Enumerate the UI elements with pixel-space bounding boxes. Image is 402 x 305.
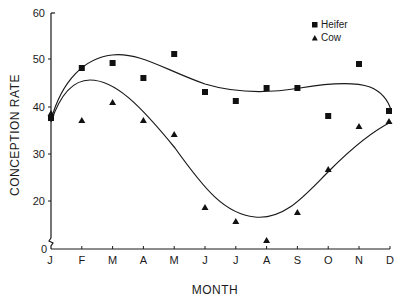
y-axis-title: CONCEPTION RATE	[8, 74, 22, 196]
heifer-point-jun	[202, 89, 208, 95]
cow-point-jul	[232, 218, 239, 224]
x-tick-dec: D	[386, 254, 394, 266]
x-tick-nov: N	[355, 254, 363, 266]
x-tick-may: M	[170, 254, 179, 266]
legend-heifer-label: Heifer	[321, 19, 348, 30]
x-tick-mar: M	[108, 254, 117, 266]
heifer-point-jul	[233, 98, 239, 104]
y-tick-0: 0	[41, 243, 47, 255]
x-tick-jan: J	[47, 254, 53, 266]
cow-point-feb	[78, 117, 85, 123]
conception-rate-chart: 60 50 40 30 20 0 J F M A M J J A S O N D	[0, 0, 402, 305]
heifer-point-feb	[79, 65, 85, 71]
x-tick-jul: J	[233, 254, 239, 266]
x-tick-sep: S	[294, 254, 301, 266]
legend-cow-triangle-icon	[312, 35, 318, 41]
y-tick-labels: 60 50 40 30 20 0	[33, 7, 47, 255]
cow-point-nov	[356, 123, 363, 129]
heifer-point-may	[171, 51, 177, 57]
cow-point-mar	[109, 99, 116, 105]
y-tick-20: 20	[33, 195, 45, 207]
x-tick-jun: J	[202, 254, 208, 266]
cow-point-apr	[140, 117, 147, 123]
x-tick-labels: J F M A M J J A S O N D	[47, 254, 394, 266]
y-tick-30: 30	[33, 148, 45, 160]
heifer-point-apr	[140, 75, 146, 81]
y-tick-60: 60	[33, 7, 45, 19]
x-tick-apr: A	[140, 254, 148, 266]
heifer-point-dec	[386, 108, 392, 114]
x-tick-aug: A	[263, 254, 271, 266]
y-axis	[49, 13, 55, 249]
cow-point-may	[171, 131, 178, 137]
x-tick-oct: O	[324, 254, 333, 266]
heifer-point-aug	[264, 85, 270, 91]
heifer-point-sep	[294, 85, 300, 91]
heifer-markers	[48, 51, 392, 121]
heifer-point-nov	[356, 61, 362, 67]
legend-heifer-square-icon	[312, 22, 318, 28]
cow-point-sep	[294, 209, 301, 215]
cow-fitted-curve	[51, 80, 391, 217]
cow-markers	[48, 99, 393, 243]
cow-point-jun	[202, 204, 209, 210]
cow-point-aug	[263, 237, 270, 243]
x-tick-feb: F	[78, 254, 85, 266]
heifer-fitted-curve	[51, 55, 391, 120]
y-tick-40: 40	[33, 101, 45, 113]
cow-point-dec	[386, 118, 393, 124]
heifer-point-oct	[325, 113, 331, 119]
y-tick-50: 50	[33, 53, 45, 65]
legend-cow-label: Cow	[321, 32, 342, 43]
heifer-point-mar	[110, 60, 116, 66]
x-axis-title: MONTH	[192, 283, 239, 297]
legend: Heifer Cow	[312, 19, 349, 43]
